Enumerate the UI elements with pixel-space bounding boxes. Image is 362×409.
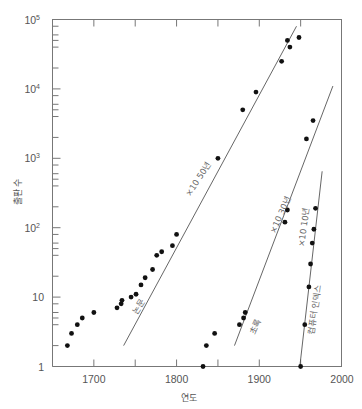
publication-growth-chart: 1700180019002000110102103104105 ×10 50년 … xyxy=(0,0,362,409)
data-point xyxy=(75,322,80,327)
data-point xyxy=(159,249,164,254)
data-point xyxy=(308,262,313,267)
x-tick-label: 2000 xyxy=(330,373,354,385)
x-tick-label: 1900 xyxy=(248,373,272,385)
data-point xyxy=(285,38,290,43)
data-point xyxy=(311,118,316,123)
data-point xyxy=(80,316,85,321)
data-point xyxy=(150,267,155,272)
data-point xyxy=(143,275,148,280)
plot-frame xyxy=(53,19,343,367)
data-point xyxy=(310,241,315,246)
data-point xyxy=(154,253,159,258)
series-label-abstracts: 초록 xyxy=(248,317,264,336)
y-tick-label: 103 xyxy=(24,152,40,164)
data-point xyxy=(212,331,217,336)
trend-line-0 xyxy=(124,26,297,345)
data-point xyxy=(297,35,302,40)
x-tick-label: 1800 xyxy=(165,373,189,385)
data-point xyxy=(115,305,120,310)
x-tick-label: 1700 xyxy=(82,373,106,385)
data-point xyxy=(237,322,242,327)
data-point xyxy=(174,232,179,237)
rate-label-30yr: ×10 30년 xyxy=(268,195,293,235)
y-tick-label: 10 xyxy=(32,291,44,303)
rate-label-10yr: ×10 10년 xyxy=(296,207,311,247)
data-point xyxy=(287,45,292,50)
data-point xyxy=(311,227,316,232)
data-point xyxy=(139,282,144,287)
data-point xyxy=(204,343,209,348)
data-point xyxy=(254,90,259,95)
data-point xyxy=(69,331,74,336)
data-point xyxy=(134,292,139,297)
data-point xyxy=(170,243,175,248)
y-tick-label: 104 xyxy=(24,83,40,95)
y-tick-label: 102 xyxy=(24,222,40,234)
trend-lines xyxy=(124,26,333,366)
axis-ticks xyxy=(53,20,301,367)
trend-line-2 xyxy=(300,171,322,366)
data-point xyxy=(313,206,318,211)
y-tick-label: 1 xyxy=(38,361,44,373)
data-point xyxy=(65,343,70,348)
rate-label-50yr: ×10 50년 xyxy=(183,160,213,199)
data-point xyxy=(201,364,206,369)
data-point xyxy=(279,59,284,64)
data-point xyxy=(120,298,125,303)
y-axis-title: 출판 수 xyxy=(13,179,23,206)
data-point xyxy=(243,310,248,315)
data-point xyxy=(304,137,309,142)
data-point xyxy=(240,107,245,112)
data-point xyxy=(307,285,312,290)
x-axis-title: 연도 xyxy=(181,393,197,403)
data-point xyxy=(129,295,134,300)
y-tick-label: 105 xyxy=(24,14,40,26)
data-point xyxy=(216,156,221,161)
data-point xyxy=(298,364,303,369)
data-point xyxy=(241,316,246,321)
data-point xyxy=(283,220,288,225)
data-point xyxy=(91,310,96,315)
